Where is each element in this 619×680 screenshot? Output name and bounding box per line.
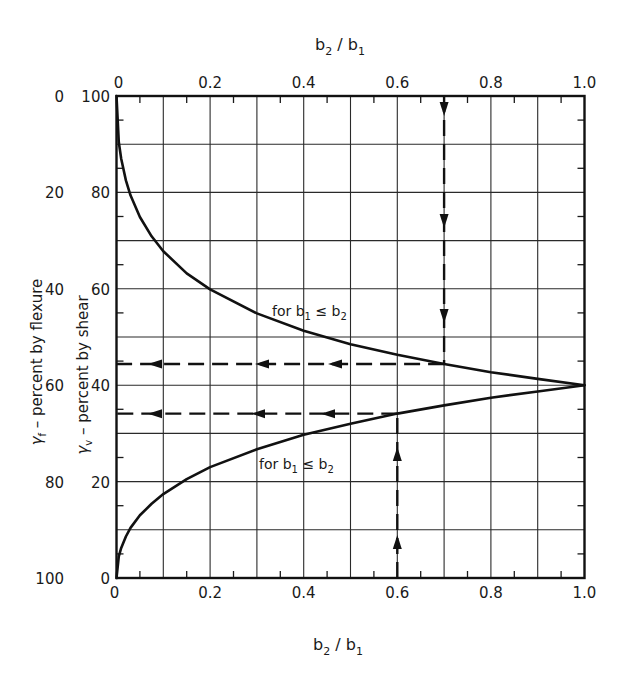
y-outer-tick-label: 20 <box>45 184 64 202</box>
x-tick-label: 0.6 <box>385 584 409 602</box>
y-inner-tick-label: 80 <box>91 184 110 202</box>
arrow-left-icon <box>148 359 162 368</box>
chart: 00.20.40.60.81.0 b2 / b1 00.20.40.60.81.… <box>0 0 619 680</box>
y-inner-tick-label: 0 <box>100 570 110 588</box>
arrow-down-icon <box>440 309 449 323</box>
x-tick-label: 1.0 <box>573 584 597 602</box>
x-tick-label: 0.2 <box>198 74 222 92</box>
arrow-down-icon <box>440 214 449 228</box>
arrow-left-icon <box>148 409 162 418</box>
x-tick-label: 0.8 <box>479 584 503 602</box>
arrow-left-icon <box>328 359 342 368</box>
y-inner-axis-title: γv – percent by shear <box>74 295 94 455</box>
y-inner-tick-label: 100 <box>81 88 110 106</box>
arrow-down-icon <box>440 102 449 116</box>
y-outer-tick-label: 100 <box>35 570 64 588</box>
upper-curve-label: for b1 ≤ b2 <box>272 303 347 322</box>
y-inner-tick-label: 40 <box>91 377 110 395</box>
grid-lines <box>117 96 585 578</box>
top-x-tick-labels: 00.20.40.60.81.0 <box>114 74 597 92</box>
y-outer-axis-title: γf – percent by flexure <box>28 279 48 446</box>
lower-curve-label: for b1 ≤ b2 <box>259 456 334 475</box>
x-tick-label: 0.8 <box>479 74 503 92</box>
x-tick-label: 0.2 <box>198 584 222 602</box>
arrow-up-icon <box>393 447 402 461</box>
x-tick-label: 0.6 <box>385 74 409 92</box>
y-outer-tick-label: 40 <box>45 281 64 299</box>
x-tick-label: 0 <box>110 584 120 602</box>
bottom-x-tick-labels: 00.20.40.60.81.0 <box>110 584 597 602</box>
y-outer-tick-label: 0 <box>54 88 64 106</box>
x-tick-label: 0.4 <box>292 584 316 602</box>
y-outer-tick-label: 80 <box>45 474 64 492</box>
arrow-left-icon <box>321 409 335 418</box>
y-inner-tick-label: 60 <box>91 281 110 299</box>
x-tick-label: 0 <box>114 74 124 92</box>
y-inner-tick-label: 20 <box>91 474 110 492</box>
x-tick-label: 0.4 <box>292 74 316 92</box>
y-outer-tick-label: 60 <box>45 377 64 395</box>
top-axis-title: b2 / b1 <box>315 35 365 58</box>
bottom-axis-title: b2 / b1 <box>313 635 363 658</box>
arrow-left-icon <box>251 409 265 418</box>
x-tick-label: 1.0 <box>573 74 597 92</box>
arrow-up-icon <box>393 535 402 549</box>
